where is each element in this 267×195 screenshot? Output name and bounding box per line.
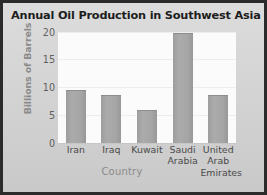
chart-figure: Annual Oil Production in Southwest Asia … (0, 0, 267, 195)
chart-title: Annual Oil Production in Southwest Asia (11, 9, 260, 22)
y-tick-label: 0 (33, 138, 55, 149)
x-tick-label-line: Kuwait (129, 144, 165, 155)
x-tick-label-line: Emirates (200, 167, 236, 178)
x-tick-label-line: Iran (58, 144, 94, 155)
x-tick-label: Iran (58, 144, 94, 155)
x-tick-label: UnitedArabEmirates (200, 144, 236, 178)
bar (173, 33, 193, 143)
x-tick-label-line: Iraq (94, 144, 130, 155)
x-axis-title: Country (67, 166, 177, 177)
x-tick-label-line: Saudi (165, 144, 201, 155)
bar-series (58, 32, 236, 144)
bar (101, 95, 121, 144)
bar (208, 95, 228, 144)
bar (137, 110, 157, 143)
y-tick-label: 15 (33, 54, 55, 65)
y-axis-tick-labels: 05101520 (33, 27, 55, 143)
x-tick-label: Iraq (94, 144, 130, 155)
x-tick-label: Kuwait (129, 144, 165, 155)
plot-area (58, 32, 236, 144)
x-tick-label-line: United (200, 144, 236, 155)
x-tick-label-line: Arab (200, 155, 236, 166)
y-axis-title: Billions of Barrels (22, 17, 33, 121)
bar (66, 90, 86, 143)
y-tick-label: 10 (33, 82, 55, 93)
x-tick-label: SaudiArabia (165, 144, 201, 167)
y-tick-label: 5 (33, 110, 55, 121)
y-tick-label: 20 (33, 26, 55, 37)
